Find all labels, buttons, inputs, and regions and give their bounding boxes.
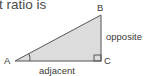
triangle-shape <box>15 15 101 61</box>
vertex-label-a: A <box>4 56 10 66</box>
side-label-opposite: opposite <box>106 32 142 42</box>
vertex-label-c: C <box>104 56 111 66</box>
side-label-adjacent: adjacent <box>39 66 75 76</box>
vertex-label-b: B <box>97 3 103 13</box>
